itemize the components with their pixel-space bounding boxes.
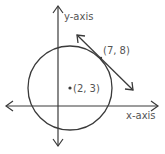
tangent-point (100, 57, 102, 59)
center-point-label: (2, 3) (73, 83, 100, 94)
tangent-line (77, 35, 133, 90)
x-axis-label: x-axis (126, 110, 156, 121)
diagram: y-axis x-axis (7, 8) (2, 3) (0, 0, 165, 154)
y-axis-label: y-axis (64, 11, 93, 22)
tangent-point-label: (7, 8) (103, 45, 130, 56)
diagram-canvas: y-axis x-axis (7, 8) (2, 3) (0, 0, 165, 154)
center-point (68, 86, 71, 89)
y-axis (53, 6, 63, 146)
